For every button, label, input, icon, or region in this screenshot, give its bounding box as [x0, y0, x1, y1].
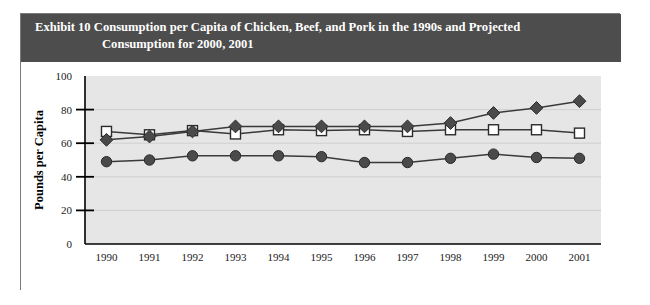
x-tick-label: 1997 [397, 251, 420, 263]
data-point-square [489, 125, 499, 135]
y-tick-label: 80 [61, 104, 73, 116]
chart-container: 020406080100 199019911992199319941995199… [21, 62, 621, 290]
x-tick-label: 1999 [483, 251, 506, 263]
y-tick-label: 0 [67, 238, 73, 250]
y-axis-tick-labels: 020406080100 [56, 70, 73, 250]
data-point-circle [316, 151, 326, 161]
x-tick-label: 1996 [354, 251, 377, 263]
data-point-circle [402, 157, 412, 167]
data-point-square [532, 125, 542, 135]
x-tick-label: 1990 [96, 251, 119, 263]
exhibit-title-line1: Consumption per Capita of Chicken, Beef,… [94, 20, 520, 34]
data-point-circle [144, 155, 154, 165]
data-point-circle [445, 153, 455, 163]
x-tick-label: 1995 [311, 251, 334, 263]
data-point-circle [574, 153, 584, 163]
x-tick-label: 1992 [182, 251, 204, 263]
data-point-circle [101, 156, 111, 166]
exhibit-header: Exhibit 10 Consumption per Capita of Chi… [21, 14, 621, 62]
data-point-circle [187, 151, 197, 161]
x-tick-label: 1994 [268, 251, 291, 263]
y-tick-label: 20 [61, 204, 73, 216]
x-axis-tick-labels: 1990199119921993199419951996199719981999… [96, 251, 591, 263]
exhibit-frame: Exhibit 10 Consumption per Capita of Chi… [20, 13, 620, 290]
x-tick-label: 2000 [526, 251, 549, 263]
y-axis-title: Pounds per Capita [32, 109, 46, 210]
y-tick-label: 40 [61, 171, 73, 183]
exhibit-title-line2: Consumption for 2000, 2001 [102, 36, 613, 53]
x-tick-label: 1991 [139, 251, 161, 263]
y-tick-label: 100 [56, 70, 73, 82]
data-point-circle [531, 152, 541, 162]
x-tick-label: 1998 [440, 251, 463, 263]
x-tick-label: 2001 [569, 251, 591, 263]
data-point-square [575, 128, 585, 138]
data-point-circle [230, 151, 240, 161]
line-chart: 020406080100 199019911992199319941995199… [21, 62, 621, 290]
y-tick-label: 60 [61, 137, 73, 149]
exhibit-label: Exhibit 10 [35, 20, 91, 34]
x-tick-label: 1993 [225, 251, 248, 263]
data-point-circle [359, 157, 369, 167]
data-point-circle [488, 149, 498, 159]
data-point-circle [273, 151, 283, 161]
exhibit-title: Exhibit 10 Consumption per Capita of Chi… [35, 19, 613, 53]
